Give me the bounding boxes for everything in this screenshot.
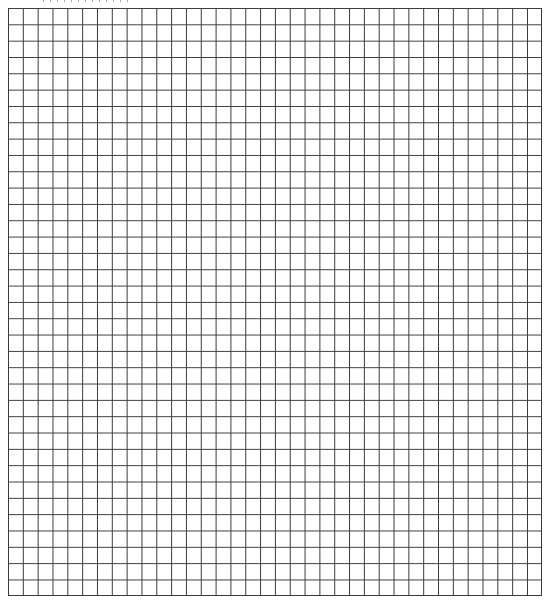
clipped-header-text <box>40 0 130 3</box>
clipped-text-fragment <box>40 0 130 2</box>
graph-paper-grid <box>8 8 542 596</box>
